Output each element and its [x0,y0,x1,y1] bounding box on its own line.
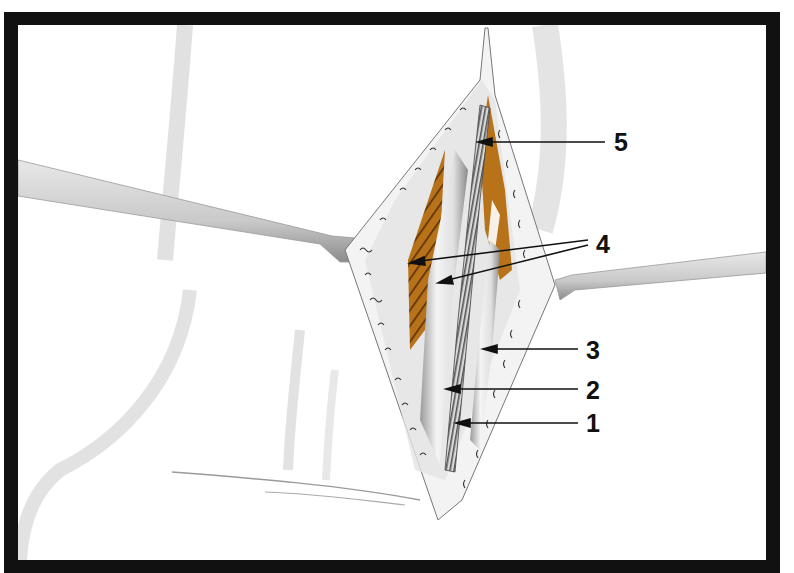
label-2: 2 [586,378,600,403]
illustration-canvas: 5 4 3 2 1 [18,25,766,560]
label-5: 5 [614,130,628,155]
label-3: 3 [586,338,600,363]
left-retractor [18,160,356,262]
anatomy-illustration [18,25,766,560]
right-retractor [555,252,766,300]
label-4: 4 [596,232,610,257]
label-1: 1 [586,411,600,436]
